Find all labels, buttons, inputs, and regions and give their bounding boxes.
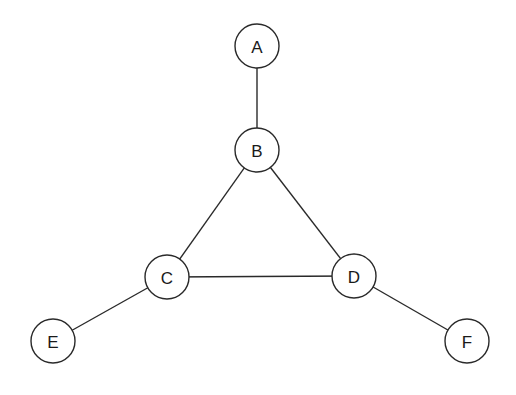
node-label: A — [251, 38, 263, 57]
node-d: D — [332, 254, 376, 298]
edge-b-c — [167, 150, 257, 277]
edges-layer — [53, 46, 467, 341]
edge-b-d — [257, 150, 354, 276]
node-a: A — [235, 24, 279, 68]
node-f: F — [445, 319, 489, 363]
node-e: E — [31, 319, 75, 363]
node-label: C — [161, 269, 173, 288]
graph-diagram: ABCDEF — [0, 0, 516, 395]
node-label: D — [348, 268, 360, 287]
node-label: E — [47, 333, 58, 352]
node-b: B — [235, 128, 279, 172]
graph-svg: ABCDEF — [0, 0, 516, 395]
node-label: F — [462, 333, 472, 352]
edge-c-d — [167, 276, 354, 277]
node-label: B — [251, 142, 262, 161]
nodes-layer: ABCDEF — [31, 24, 489, 363]
node-c: C — [145, 255, 189, 299]
